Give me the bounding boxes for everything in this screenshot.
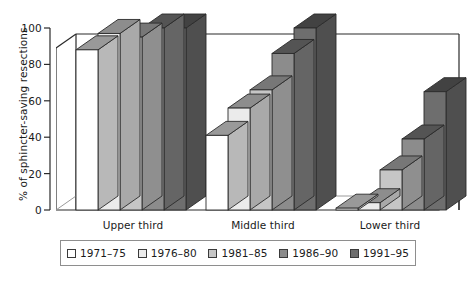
legend-item-1981-85[interactable]: 1981–85	[208, 247, 267, 259]
chart-root: 100 80 60 40 20 0 % of sphincter-saving …	[0, 0, 476, 281]
legend-item-1991-95[interactable]: 1991–95	[350, 247, 409, 259]
legend-label: 1981–85	[221, 247, 267, 259]
plot-frame-svg	[56, 14, 460, 216]
y-tick-label-0: 0	[16, 204, 42, 216]
legend-label: 1986–90	[292, 247, 338, 259]
legend-swatch-icon	[208, 249, 217, 258]
plot-area	[56, 14, 460, 216]
legend-swatch-icon	[67, 249, 76, 258]
legend-label: 1976–80	[151, 247, 197, 259]
y-axis-title: % of sphincter-saving resections	[17, 31, 29, 201]
legend-item-1986-90[interactable]: 1986–90	[279, 247, 338, 259]
legend-swatch-icon	[350, 249, 359, 258]
legend-swatch-icon	[279, 249, 288, 258]
legend-label: 1991–95	[363, 247, 409, 259]
legend-label: 1971–75	[80, 247, 126, 259]
category-label-middle: Middle third	[231, 219, 295, 231]
legend-item-1976-80[interactable]: 1976–80	[138, 247, 197, 259]
legend-swatch-icon	[138, 249, 147, 258]
y-axis: 100 80 60 40 20 0 % of sphincter-saving …	[0, 0, 58, 281]
category-label-lower: Lower third	[360, 219, 420, 231]
legend: 1971–75 1976–80 1981–85 1986–90 1991–95	[60, 240, 416, 266]
legend-item-1971-75[interactable]: 1971–75	[67, 247, 126, 259]
category-label-upper: Upper third	[103, 219, 164, 231]
